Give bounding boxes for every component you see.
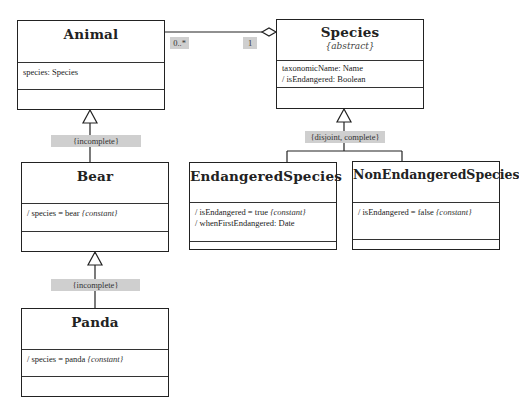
attribute: / isEndangered = false {constant}: [358, 207, 494, 218]
class-bear[interactable]: Bear / species = bear {constant}: [21, 162, 169, 252]
generalization-arrow-icon: [83, 110, 97, 123]
class-name-section: EndangeredSpecies: [190, 168, 336, 203]
attributes-section: species: Species: [18, 63, 164, 90]
class-endangered-species[interactable]: EndangeredSpecies / isEndangered = true …: [189, 162, 337, 250]
class-panda[interactable]: Panda / species = panda {constant}: [21, 308, 169, 397]
attributes-section: / species = panda {constant}: [22, 350, 168, 377]
attribute: / whenFirstEndangered: Date: [195, 218, 331, 229]
multiplicity-species-end: 1: [243, 37, 257, 49]
class-name-section: Animal: [18, 26, 164, 63]
multiplicity-animal-end: 0..*: [170, 37, 189, 49]
attributes-section: / isEndangered = false {constant}: [353, 203, 499, 240]
attribute: / isEndangered = true {constant}: [195, 207, 331, 218]
class-name: Bear: [22, 168, 168, 184]
class-name: NonEndangeredSpecies: [353, 167, 499, 182]
class-name: Animal: [18, 26, 164, 42]
class-name-section: NonEndangeredSpecies: [353, 167, 499, 203]
attributes-section: taxonomicName: Name / isEndangered: Bool…: [277, 61, 423, 88]
generalization-set-label: {incomplete}: [51, 135, 141, 147]
class-name-section: Species {abstract}: [277, 24, 423, 61]
class-name: EndangeredSpecies: [190, 168, 336, 184]
class-name-section: Bear: [22, 168, 168, 204]
attribute: species: Species: [23, 67, 159, 78]
class-name: Species: [277, 24, 423, 40]
attribute: / species = panda {constant}: [27, 354, 163, 365]
class-non-endangered-species[interactable]: NonEndangeredSpecies / isEndangered = fa…: [352, 161, 500, 250]
generalization-set-label: {disjoint, complete}: [305, 131, 385, 143]
generalization-arrow-icon: [337, 109, 351, 122]
class-stereotype: {abstract}: [277, 41, 423, 51]
generalization-arrow-icon: [88, 252, 102, 265]
class-animal[interactable]: Animal species: Species: [17, 20, 165, 110]
attributes-section: / isEndangered = true {constant} / whenF…: [190, 203, 336, 242]
generalization-set-label: {incomplete}: [51, 279, 140, 291]
aggregation-diamond-icon: [262, 28, 276, 36]
attribute: / species = bear {constant}: [27, 208, 163, 219]
class-species[interactable]: Species {abstract} taxonomicName: Name /…: [276, 19, 424, 109]
attribute: / isEndangered: Boolean: [282, 74, 418, 85]
attribute: taxonomicName: Name: [282, 63, 418, 74]
class-name-section: Panda: [22, 314, 168, 350]
attributes-section: / species = bear {constant}: [22, 204, 168, 232]
class-name: Panda: [22, 314, 168, 330]
